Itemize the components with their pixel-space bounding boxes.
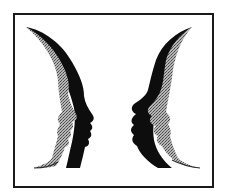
illusion-artwork	[0, 0, 226, 192]
left-face-profiles	[26, 27, 94, 168]
right-face-profiles	[131, 27, 200, 168]
left-stipple-profile	[26, 27, 77, 168]
